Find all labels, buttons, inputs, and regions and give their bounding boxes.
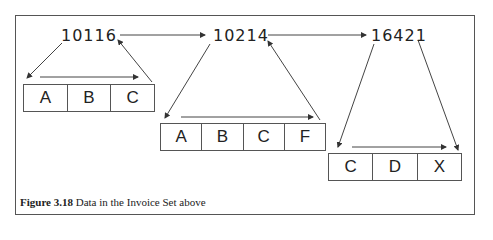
member-cell: B bbox=[67, 85, 111, 111]
member-set-1: A B C bbox=[23, 84, 155, 112]
member-cell: C bbox=[243, 124, 284, 150]
figure-caption: Figure 3.18 Data in the Invoice Set abov… bbox=[20, 196, 206, 208]
member-cell: A bbox=[24, 85, 67, 111]
figure-label: Figure 3.18 bbox=[20, 196, 73, 208]
figure-caption-text: Data in the Invoice Set above bbox=[73, 196, 206, 208]
member-cell: C bbox=[329, 154, 372, 180]
member-set-2: A B C F bbox=[160, 123, 326, 151]
member-set-3: C D X bbox=[328, 153, 462, 181]
owner-record-10116: 10116 bbox=[61, 26, 117, 45]
member-cell: D bbox=[372, 154, 416, 180]
member-cell: C bbox=[110, 85, 154, 111]
owner-record-10214: 10214 bbox=[213, 26, 269, 45]
member-cell: A bbox=[161, 124, 201, 150]
member-cell: X bbox=[417, 154, 461, 180]
member-cell: F bbox=[284, 124, 325, 150]
owner-record-16421: 16421 bbox=[371, 26, 427, 45]
member-cell: B bbox=[201, 124, 242, 150]
